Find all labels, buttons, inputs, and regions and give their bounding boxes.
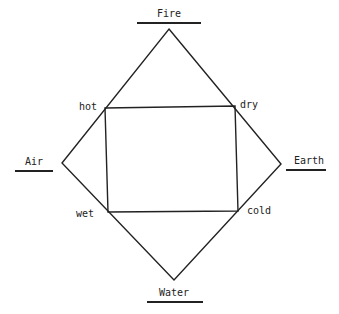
earth-underline xyxy=(286,169,326,171)
air-underline xyxy=(15,170,53,172)
element-fire: Fire xyxy=(139,8,199,19)
element-water-label: Water xyxy=(159,287,189,298)
element-earth: Earth xyxy=(285,155,333,166)
quality-dry: dry xyxy=(240,99,258,110)
quality-wet: wet xyxy=(76,208,94,219)
quality-hot: hot xyxy=(79,101,97,112)
element-water: Water xyxy=(144,287,204,298)
water-underline xyxy=(147,301,203,303)
element-earth-label: Earth xyxy=(294,155,324,166)
elements-diamond xyxy=(62,29,281,280)
element-air: Air xyxy=(14,156,54,167)
element-fire-label: Fire xyxy=(157,8,181,19)
element-air-label: Air xyxy=(25,156,43,167)
qualities-rectangle xyxy=(105,106,238,212)
four-elements-diagram: Fire Air Earth Water hot dry wet cold xyxy=(0,0,339,314)
fire-underline xyxy=(137,22,201,24)
quality-cold: cold xyxy=(247,205,271,216)
